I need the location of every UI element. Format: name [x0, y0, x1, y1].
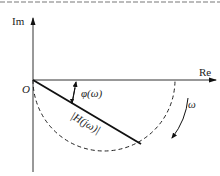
re-axis-label: Re: [199, 66, 211, 78]
omega-direction-arrow: [172, 98, 188, 138]
im-axis-label: Im: [12, 15, 25, 27]
magnitude-label: |H(jω)|: [69, 109, 103, 136]
phase-label: φ(ω): [81, 87, 103, 100]
omega-label: ω: [188, 98, 196, 110]
origin-label: O: [22, 83, 30, 95]
locus-semicircle: [33, 80, 175, 151]
complex-plane-diagram: Im Re O φ(ω) ω |H(jω)|: [0, 0, 220, 176]
